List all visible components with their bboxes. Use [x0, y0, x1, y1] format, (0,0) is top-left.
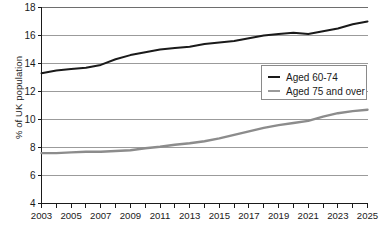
- legend-swatch-aged-75-and-over: [268, 90, 280, 92]
- chart-legend: Aged 60-74 Aged 75 and over: [261, 65, 367, 100]
- legend-label-aged-75-and-over: Aged 75 and over: [286, 86, 365, 97]
- series-line-1: [42, 110, 368, 153]
- legend-item-aged-75-and-over: Aged 75 and over: [268, 84, 359, 98]
- line-chart: % of UK population 4681012141618 2003200…: [0, 0, 382, 240]
- legend-swatch-aged-60-74: [268, 76, 280, 78]
- legend-item-aged-60-74: Aged 60-74: [268, 70, 359, 84]
- legend-label-aged-60-74: Aged 60-74: [286, 72, 338, 83]
- plot-area: [0, 0, 382, 240]
